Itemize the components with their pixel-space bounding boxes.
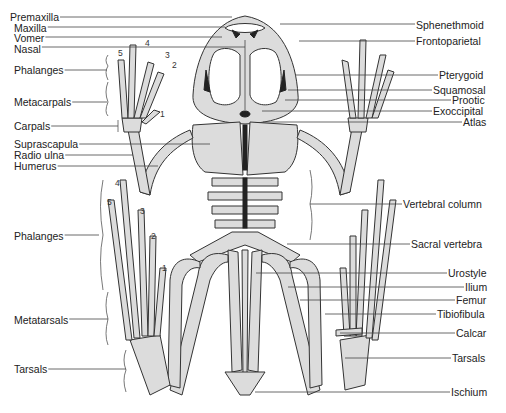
fore-digit-1: 1 [160,110,165,119]
label-metatarsals: Metatarsals [14,314,68,326]
hind-digit-1: 1 [162,264,167,273]
label-ilium: Ilium [465,281,487,293]
label-metacarpals: Metacarpals [14,96,71,108]
label-calcar: Calcar [456,327,486,339]
label-tarsals-right: Tarsals [452,352,485,364]
label-nasal: Nasal [14,43,41,55]
fore-digit-2: 2 [172,61,177,70]
label-phalanges-hind: Phalanges [14,230,64,242]
label-tarsals-left: Tarsals [14,363,47,375]
label-sphenethmoid: Sphenethmoid [416,19,484,31]
label-pterygoid: Pterygoid [439,69,483,81]
fore-digit-5: 5 [118,49,123,58]
label-femur: Femur [456,294,486,306]
hind-digit-4: 4 [115,179,120,188]
label-atlas: Atlas [463,116,486,128]
frog-skeleton-diagram: Premaxilla Maxilla Vomer Nasal Phalanges… [0,0,506,413]
label-phalanges-fore: Phalanges [14,64,64,76]
hind-digit-5: 5 [107,198,112,207]
label-frontoparietal: Frontoparietal [416,35,481,47]
label-sacral-vertebra: Sacral vertebra [411,238,482,250]
label-carpals: Carpals [14,120,50,132]
fore-digit-3: 3 [165,51,170,60]
hind-digit-2: 2 [151,232,156,241]
label-vertebral-column: Vertebral column [403,198,482,210]
label-humerus: Humerus [14,160,57,172]
hind-digit-3: 3 [140,207,145,216]
fore-digit-4: 4 [145,39,150,48]
label-urostyle: Urostyle [448,267,487,279]
label-ischium: Ischium [451,386,487,398]
label-tibiofibula: Tibiofibula [437,308,484,320]
